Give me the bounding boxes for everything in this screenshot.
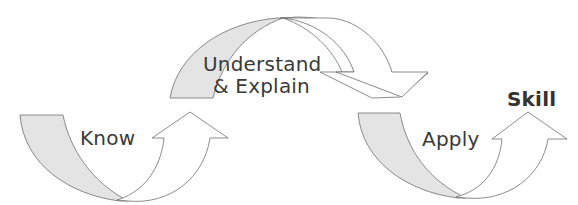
- diagram-canvas: Know Understand & Explain Apply Skill: [0, 0, 578, 205]
- label-skill: Skill: [507, 88, 556, 110]
- label-explain: & Explain: [213, 75, 310, 97]
- arrows-layer: [0, 0, 578, 205]
- label-apply: Apply: [422, 128, 479, 150]
- label-understand: Understand: [203, 53, 321, 75]
- arrow-apply: [358, 112, 567, 198]
- arrow-apply-tail: [358, 113, 466, 198]
- arrow-apply-head: [456, 112, 567, 198]
- label-know: Know: [80, 127, 135, 149]
